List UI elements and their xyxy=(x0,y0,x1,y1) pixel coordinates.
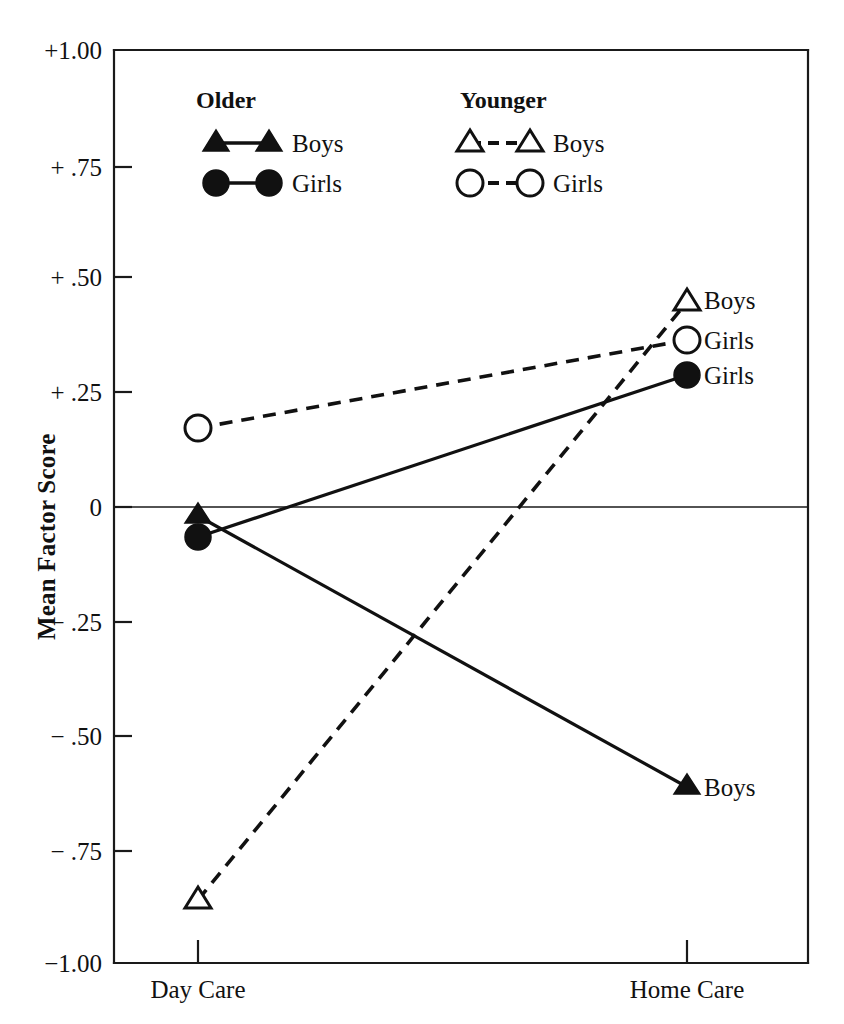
ytick-label-minus-100: −1.00 xyxy=(6,951,102,976)
legend-older-glyphs xyxy=(203,130,282,196)
legend-younger-girls-marker-right xyxy=(517,170,543,196)
legend-younger-boys-marker-right xyxy=(517,130,543,151)
series-younger-boys-line xyxy=(198,302,687,900)
legend-label-older-girls: Girls xyxy=(292,171,342,196)
marker-older-boys-homecare xyxy=(674,774,700,794)
marker-older-boys-daycare xyxy=(185,503,211,523)
marker-older-girls-daycare xyxy=(185,524,211,550)
xtick-label-day-care: Day Care xyxy=(118,977,278,1002)
legend-heading-younger: Younger xyxy=(460,88,547,112)
point-label-older-boys: Boys xyxy=(704,775,755,800)
series-older-girls-line xyxy=(198,375,687,537)
series-older-boys-line xyxy=(198,516,687,787)
ytick-label-plus-050: + .50 xyxy=(6,265,102,290)
legend-older-girls-marker-right xyxy=(256,170,282,196)
series-older-boys xyxy=(185,503,700,794)
y-axis-title: Mean Factor Score xyxy=(34,433,59,640)
marker-younger-boys-homecare xyxy=(674,289,700,310)
xtick-label-home-care: Home Care xyxy=(607,977,767,1002)
legend-older-boys-marker-left xyxy=(203,130,229,151)
legend-heading-older: Older xyxy=(196,88,256,112)
ytick-label-plus-075: + .75 xyxy=(6,155,102,180)
legend-label-younger-boys: Boys xyxy=(553,131,604,156)
legend-younger-glyphs xyxy=(457,130,543,196)
marker-younger-girls-daycare xyxy=(185,415,211,441)
marker-older-girls-homecare xyxy=(674,362,700,388)
point-label-older-girls: Girls xyxy=(704,363,754,388)
series-older-girls xyxy=(185,362,700,550)
series-younger-girls-line xyxy=(198,340,687,428)
chart-canvas xyxy=(0,0,844,1024)
ytick-label-minus-075: − .75 xyxy=(6,839,102,864)
point-label-younger-boys: Boys xyxy=(704,288,755,313)
ytick-label-plus-100: +1.00 xyxy=(6,38,102,63)
legend-younger-boys-marker-left xyxy=(457,130,483,151)
marker-younger-girls-homecare xyxy=(674,327,700,353)
ytick-label-plus-025: + .25 xyxy=(6,380,102,405)
y-axis-ticks xyxy=(114,167,132,851)
legend-label-younger-girls: Girls xyxy=(553,171,603,196)
legend-label-older-boys: Boys xyxy=(292,131,343,156)
point-label-younger-girls: Girls xyxy=(704,328,754,353)
x-axis-ticks xyxy=(198,940,687,963)
legend-younger-girls-marker-left xyxy=(457,170,483,196)
series-younger-boys xyxy=(185,289,700,908)
legend-older-boys-marker-right xyxy=(256,130,282,151)
ytick-label-minus-050: − .50 xyxy=(6,724,102,749)
chart-figure: +1.00 + .75 + .50 + .25 0 − .25 − .50 − … xyxy=(0,0,844,1024)
legend-older-girls-marker-left xyxy=(203,170,229,196)
marker-younger-boys-daycare xyxy=(185,887,211,908)
series-younger-girls xyxy=(185,327,700,441)
